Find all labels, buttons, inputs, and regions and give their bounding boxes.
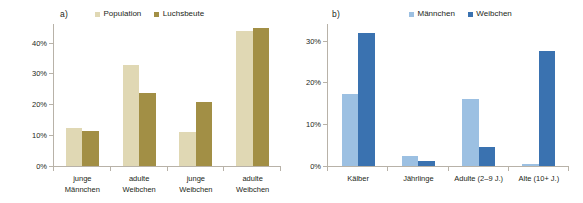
y-tick-b-1 [323,124,327,125]
y-tick-a-4 [49,43,53,44]
y-tick-label-b-3: 30% [306,36,321,45]
x-tick-a-1 [110,167,111,171]
y-tick-label-a-2: 20% [32,100,47,109]
panel-a: a) Population Luchsbeute 0%10%20%30%40% … [0,0,291,203]
x-label-line: junge [65,174,100,185]
bar-group [179,24,212,166]
legend-panel-a: Population Luchsbeute [95,10,204,18]
x-label-line: Weibchen [179,185,212,196]
bar-a-3-0 [236,31,253,166]
x-tick-b-3 [508,167,509,171]
bar-group-container-b [328,24,569,166]
x-label-line: Adulte (2–9 J.) [454,174,503,185]
x-tick-a-2 [167,167,168,171]
bar-b-1-1 [418,161,435,166]
x-axis-label: Jährlinge [403,174,433,185]
x-label-line: Jährlinge [403,174,433,185]
x-tick-a-3 [223,167,224,171]
x-tick-b-1 [387,167,388,171]
panel-b-label: b) [332,9,340,19]
legend-item-population: Population [95,10,141,18]
y-tick-label-b-1: 10% [306,120,321,129]
x-label-line: Männchen [65,185,100,196]
y-tick-label-b-2: 20% [306,78,321,87]
x-label-line: Weibchen [123,185,156,196]
bar-b-3-1 [539,51,556,166]
bar-group [342,24,375,166]
x-axis-label: adulteWeibchen [236,174,269,195]
bar-group-container-a [54,24,281,166]
x-tick-b-end [568,167,569,171]
bar-group [462,24,495,166]
x-tick-b-2 [448,167,449,171]
legend-label-population: Population [104,10,142,18]
panel-a-label: a) [60,9,68,19]
x-tick-b-0 [327,167,328,171]
x-label-line: Kälber [347,174,369,185]
legend-panel-b: Männchen Weibchen [409,10,512,18]
bar-b-2-1 [479,147,496,166]
bar-group [66,24,99,166]
x-axis-label: jungeWeibchen [179,174,212,195]
y-tick-b-2 [323,82,327,83]
x-axis-label: jungeMännchen [65,174,100,195]
bar-b-2-0 [462,99,479,166]
bar-b-3-0 [522,164,539,166]
x-axis-label: Alte (10+ J.) [519,174,560,185]
legend-label-weibchen: Weibchen [476,10,511,18]
bar-a-1-0 [123,65,140,166]
legend-item-maennchen: Männchen [409,10,455,18]
plot-area-b: 0%10%20%30% [327,24,569,167]
legend-swatch-weibchen [468,12,473,17]
x-axis-label: adulteWeibchen [123,174,156,195]
figure-two-panel-bar-charts: a) Population Luchsbeute 0%10%20%30%40% … [0,0,583,203]
x-tick-a-0 [53,167,54,171]
legend-swatch-luchsbeute [154,12,159,17]
legend-label-luchsbeute: Luchsbeute [163,10,204,18]
x-label-line: adulte [123,174,156,185]
bar-b-0-0 [342,94,359,166]
x-tick-a-end [280,167,281,171]
bar-group [236,24,269,166]
bar-group [123,24,156,166]
panel-b: b) Männchen Weibchen 0%10%20%30% KälberJ… [291,0,583,203]
y-tick-a-1 [49,135,53,136]
legend-item-luchsbeute: Luchsbeute [154,10,204,18]
y-tick-label-a-3: 30% [32,69,47,78]
legend-swatch-maennchen [409,12,414,17]
plot-area-a: 0%10%20%30%40% [53,24,281,167]
y-tick-a-3 [49,73,53,74]
bar-a-2-0 [179,132,196,166]
legend-swatch-population [95,12,100,17]
x-label-line: adulte [236,174,269,185]
bar-group [402,24,435,166]
y-tick-label-a-4: 40% [32,38,47,47]
y-tick-label-a-0: 0% [36,162,47,171]
bar-group [522,24,555,166]
x-label-line: Alte (10+ J.) [519,174,560,185]
bar-a-0-0 [66,128,83,166]
y-tick-label-a-1: 10% [32,131,47,140]
bar-b-1-0 [402,156,419,166]
legend-label-maennchen: Männchen [418,10,455,18]
legend-item-weibchen: Weibchen [468,10,512,18]
bar-a-3-1 [253,28,270,166]
bar-a-0-1 [82,131,99,166]
bar-b-0-1 [358,33,375,166]
x-axis-label: Adulte (2–9 J.) [454,174,503,185]
y-tick-b-3 [323,41,327,42]
x-axis-label: Kälber [347,174,369,185]
y-tick-a-2 [49,104,53,105]
x-label-line: junge [179,174,212,185]
bar-a-2-1 [196,102,213,166]
bar-a-1-1 [139,93,156,166]
x-label-line: Weibchen [236,185,269,196]
y-tick-label-b-0: 0% [310,162,321,171]
